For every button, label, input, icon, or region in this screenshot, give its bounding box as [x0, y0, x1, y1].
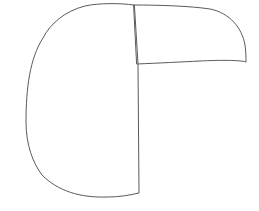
- upper-right-wedge-shape: [134, 5, 246, 64]
- sketch-canvas: [0, 0, 259, 211]
- left-half-disc-shape: [26, 4, 139, 197]
